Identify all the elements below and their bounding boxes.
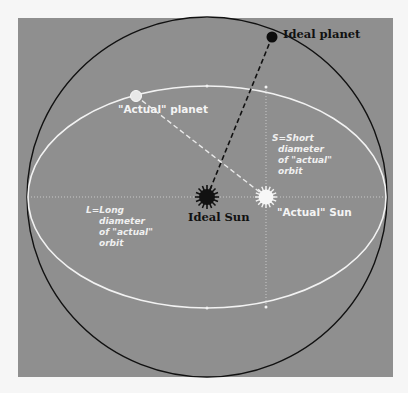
- svg-text:of "actual": of "actual": [278, 155, 332, 165]
- actual-sun-label: "Actual" Sun: [277, 206, 352, 218]
- short-axis-bottom-dot: [265, 306, 268, 309]
- svg-text:of "actual": of "actual": [99, 227, 153, 237]
- svg-text:orbit: orbit: [99, 238, 124, 248]
- orbit-top-dot: [206, 85, 209, 88]
- svg-text:orbit: orbit: [278, 166, 303, 176]
- orbit-bottom-dot: [206, 307, 209, 310]
- svg-text:L=Long: L=Long: [86, 205, 125, 215]
- ideal-sun-icon: [195, 185, 219, 209]
- short-axis-top-dot: [265, 86, 268, 89]
- ideal-sun-label: Ideal Sun: [188, 210, 250, 224]
- actual-planet-icon: [131, 91, 142, 102]
- orbit-diagram: Ideal planet "Actual" planet Ideal Sun "…: [0, 0, 408, 393]
- ideal-planet-icon: [267, 32, 278, 43]
- actual-sun-icon: [255, 186, 277, 208]
- ideal-planet-label: Ideal planet: [283, 27, 361, 41]
- svg-text:diameter: diameter: [99, 216, 145, 226]
- actual-planet-label: "Actual" planet: [118, 103, 208, 115]
- svg-text:S=Short: S=Short: [272, 133, 315, 143]
- svg-text:diameter: diameter: [278, 144, 324, 154]
